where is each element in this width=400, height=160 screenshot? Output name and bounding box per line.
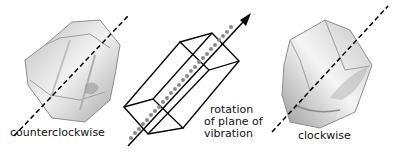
left-crystal [25, 20, 120, 122]
clockwise-label: clockwise [298, 130, 351, 142]
rotation-caption: rotation of plane of vibration [204, 104, 263, 140]
counterclockwise-label: counterclockwise [10, 127, 105, 139]
right-crystal [282, 20, 372, 128]
caption-line-3: vibration [204, 128, 263, 140]
